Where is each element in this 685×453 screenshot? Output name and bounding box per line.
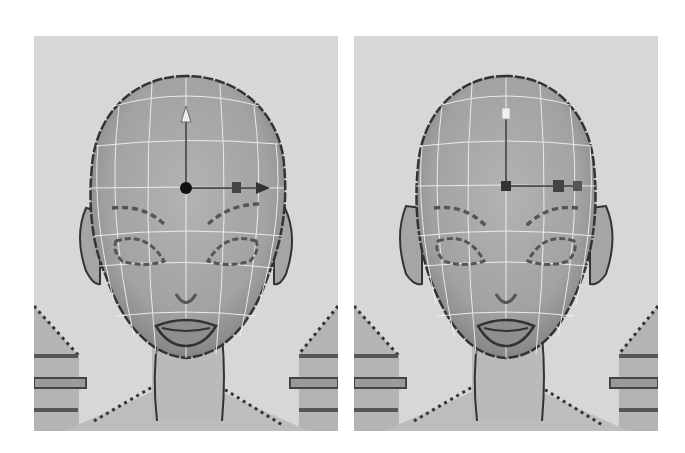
viewport-left[interactable] [34, 36, 338, 431]
viewport-right[interactable] [354, 36, 658, 431]
shoulder-right [610, 306, 658, 431]
head-model-left [34, 36, 338, 431]
shoulder-left [354, 306, 406, 431]
head-model-right [354, 36, 658, 431]
figure [0, 0, 685, 453]
plane-handle-icon [553, 180, 564, 192]
y-cube-icon [502, 108, 510, 119]
center-cube-icon [501, 181, 511, 191]
center-sphere-icon [180, 182, 192, 194]
shoulder-right [290, 306, 338, 431]
x-cube-icon [573, 181, 582, 191]
plane-handle-icon [232, 182, 241, 193]
shoulder-left [34, 306, 86, 431]
